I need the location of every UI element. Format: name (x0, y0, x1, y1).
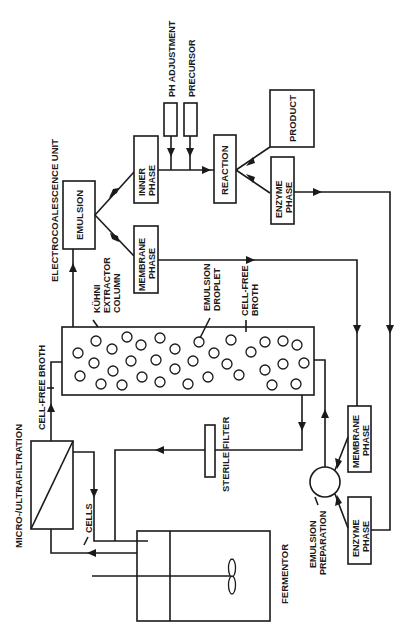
filtration-label: MICRO-/ULTRAFILTRATION (13, 424, 24, 548)
sterile-filter-box (205, 425, 215, 477)
arrow-right-icon (202, 166, 211, 174)
arrow-left-icon (155, 446, 164, 454)
fermentor: FERMENTOR (92, 531, 290, 621)
precursor-label: PRECURSOR (187, 39, 197, 97)
emulsion-preparation-label-1: EMULSION (308, 520, 318, 568)
cells-leader (84, 537, 88, 545)
arrow-up-icon (69, 263, 77, 272)
ph-adjustment-label: PH ADJUSTMENT (167, 20, 177, 97)
cell-free-broth-out-label-2: BROTH (250, 284, 260, 316)
arrow-down-icon (90, 489, 98, 498)
arrow-down-icon (298, 422, 306, 431)
enzyme-phase-bottom-label-1: ENZYME (351, 519, 361, 557)
precursor-box (184, 103, 197, 136)
inner-phase-label-2: PHASE (147, 165, 157, 196)
filtration-unit: MICRO-/ULTRAFILTRATION (13, 424, 73, 548)
ph-adjustment-box (164, 103, 177, 136)
arrow-up-right-icon (109, 188, 119, 198)
cell-free-broth-label: CELL-FREE BROTH (37, 345, 47, 430)
extractor-label-1: KÜHNI (92, 285, 102, 314)
emulsion-preparation-leader (315, 497, 318, 505)
reaction-label: REACTION (219, 145, 230, 195)
extractor-leader (93, 320, 98, 327)
membrane-phase-top-label-2: PHASE (147, 248, 157, 279)
arrow-right-icon (313, 188, 322, 196)
kuhni-extractor-column: KÜHNI EXTRACTOR COLUMN EMULSION DROPLET … (62, 257, 314, 395)
emulsion-droplet-label-1: EMULSION (202, 263, 212, 311)
enzyme-phase-bottom-label-2: PHASE (361, 521, 371, 552)
emulsion-label: EMULSION (74, 190, 85, 240)
fermentor-label: FERMENTOR (279, 544, 290, 604)
cell-free-broth-out-label-1: CELL-FREE (240, 266, 250, 317)
sterile-filter-label: STERILE FILTER (220, 417, 231, 492)
arrow-down-icon (386, 325, 394, 334)
inner-phase-label-1: INNER (137, 167, 147, 196)
sterile-filter-to-fermentor-line (115, 450, 205, 541)
impeller-blade-top (229, 559, 236, 577)
membrane-phase-top-label-1: MEMBRANE (137, 238, 147, 291)
enzyme-phase-top-label-1: ENZYME (274, 180, 284, 218)
cell-free-broth-feed-line (51, 362, 62, 441)
arrow-down-icon (186, 148, 194, 157)
product-label: PRODUCT (287, 95, 298, 142)
arrow-right-icon (246, 256, 255, 264)
process-flow-diagram: FERMENTOR MICRO-/ULTRAFILTRATION CELLS C… (0, 0, 408, 627)
arrow-up-icon (47, 403, 55, 412)
emulsion-preparation-label-2: PREPARATION (318, 511, 328, 575)
membrane-phase-bottom-label-1: MEMBRANE (351, 415, 361, 468)
arrow-left-icon (87, 549, 96, 557)
cells-label: CELLS (84, 503, 94, 533)
arrow-down-icon (167, 148, 175, 157)
emulsion-droplet-label-2: DROPLET (212, 267, 222, 311)
impeller-blade-bottom (229, 576, 236, 594)
electrocoalescence-unit: ELECTROCOALESCENCE UNIT EMULSION (49, 139, 95, 282)
enzyme-phase-top-label-2: PHASE (284, 182, 294, 213)
electrocoalescence-label: ELECTROCOALESCENCE UNIT (49, 139, 60, 282)
extractor-label-3: COLUMN (112, 274, 122, 314)
membrane-phase-bottom-label-2: PHASE (361, 425, 371, 456)
arrow-up-icon (321, 409, 329, 418)
emulsion-preparation-mixer (310, 467, 340, 497)
arrow-down-icon (353, 325, 361, 334)
extractor-label-2: EXTRACTOR (102, 257, 112, 313)
